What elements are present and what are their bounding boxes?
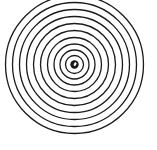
concentric-circles-figure: [0, 0, 157, 150]
